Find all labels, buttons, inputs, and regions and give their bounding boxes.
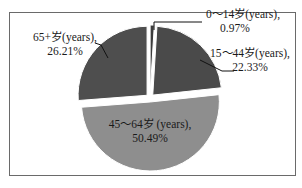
- pie-slice: [153, 26, 222, 95]
- slice-percent-label: 22.33%: [232, 61, 268, 73]
- slice-label: 0～14岁(years),: [206, 7, 280, 21]
- slice-label: 45～64岁 (years),: [109, 117, 192, 131]
- slice-label: 65+岁(years),: [33, 30, 97, 44]
- slice-percent-label: 50.49%: [132, 132, 168, 144]
- slice-label: 15～44岁(years),: [210, 46, 290, 60]
- slice-percent-label: 26.21%: [47, 45, 83, 57]
- pie-chart: 0～14岁(years),0.97%15～44岁(years),22.33%45…: [0, 0, 302, 188]
- slice-percent-label: 0.97%: [220, 22, 250, 34]
